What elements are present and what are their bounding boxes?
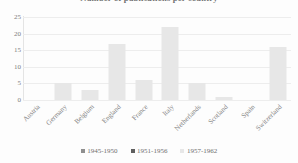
x-axis-tick-label: Austria xyxy=(22,103,42,123)
bar-group xyxy=(77,17,104,100)
bar-group xyxy=(103,17,130,100)
y-axis-tick-label: 15 xyxy=(1,46,21,54)
bar xyxy=(108,44,125,100)
bar-group xyxy=(130,17,157,100)
x-axis-tick-label: Belgium xyxy=(73,103,96,126)
x-axis-tick: Scotland xyxy=(211,101,238,141)
y-axis-tick-label: 25 xyxy=(1,13,21,21)
y-axis-tick-label: 0 xyxy=(1,96,21,104)
x-axis-tick-label: Spain xyxy=(240,103,257,120)
y-axis-tick-label: 10 xyxy=(1,63,21,71)
y-axis-tick-label: 20 xyxy=(1,30,21,38)
x-axis-tick-label: England xyxy=(100,103,122,125)
bar xyxy=(55,83,72,100)
bar xyxy=(162,27,179,100)
bar-group xyxy=(23,17,50,100)
bar-group xyxy=(157,17,184,100)
x-axis-tick-label: France xyxy=(130,103,149,122)
bar-group xyxy=(264,17,291,100)
x-axis-tick: Switzerland xyxy=(264,101,291,141)
bar xyxy=(215,97,232,100)
chart-legend: 1945-19501951-19561957-1962 xyxy=(0,147,298,155)
x-axis-tick-label: Italy xyxy=(161,103,176,118)
bar xyxy=(135,80,152,100)
legend-swatch-icon xyxy=(131,149,135,153)
x-axis: AustriaGermanyBelgiumEnglandFranceItalyN… xyxy=(23,101,291,141)
x-axis-tick-label: Scotland xyxy=(207,103,230,126)
legend-item[interactable]: 1945-1950 xyxy=(81,147,118,155)
x-axis-tick: England xyxy=(103,101,130,141)
bar-chart-figure: Number of publications per country 05101… xyxy=(0,0,298,163)
legend-item[interactable]: 1957-1962 xyxy=(180,147,217,155)
legend-item[interactable]: 1951-1956 xyxy=(131,147,168,155)
legend-label: 1945-1950 xyxy=(87,147,117,155)
bar-group xyxy=(50,17,77,100)
legend-swatch-icon xyxy=(81,149,85,153)
y-axis-tick-label: 5 xyxy=(1,79,21,87)
legend-label: 1957-1962 xyxy=(187,147,217,155)
y-axis: 0510152025 xyxy=(0,17,21,100)
chart-title: Number of publications per country xyxy=(0,0,298,3)
bar xyxy=(81,90,98,100)
bar-group xyxy=(237,17,264,100)
bar-group xyxy=(211,17,238,100)
x-axis-tick: Belgium xyxy=(77,101,104,141)
legend-swatch-icon xyxy=(180,149,184,153)
x-axis-tick: Germany xyxy=(50,101,77,141)
x-axis-tick: France xyxy=(130,101,157,141)
bar xyxy=(269,47,286,100)
bar-series-group xyxy=(23,17,291,100)
bar-group xyxy=(184,17,211,100)
bar xyxy=(189,83,206,100)
legend-label: 1951-1956 xyxy=(137,147,167,155)
